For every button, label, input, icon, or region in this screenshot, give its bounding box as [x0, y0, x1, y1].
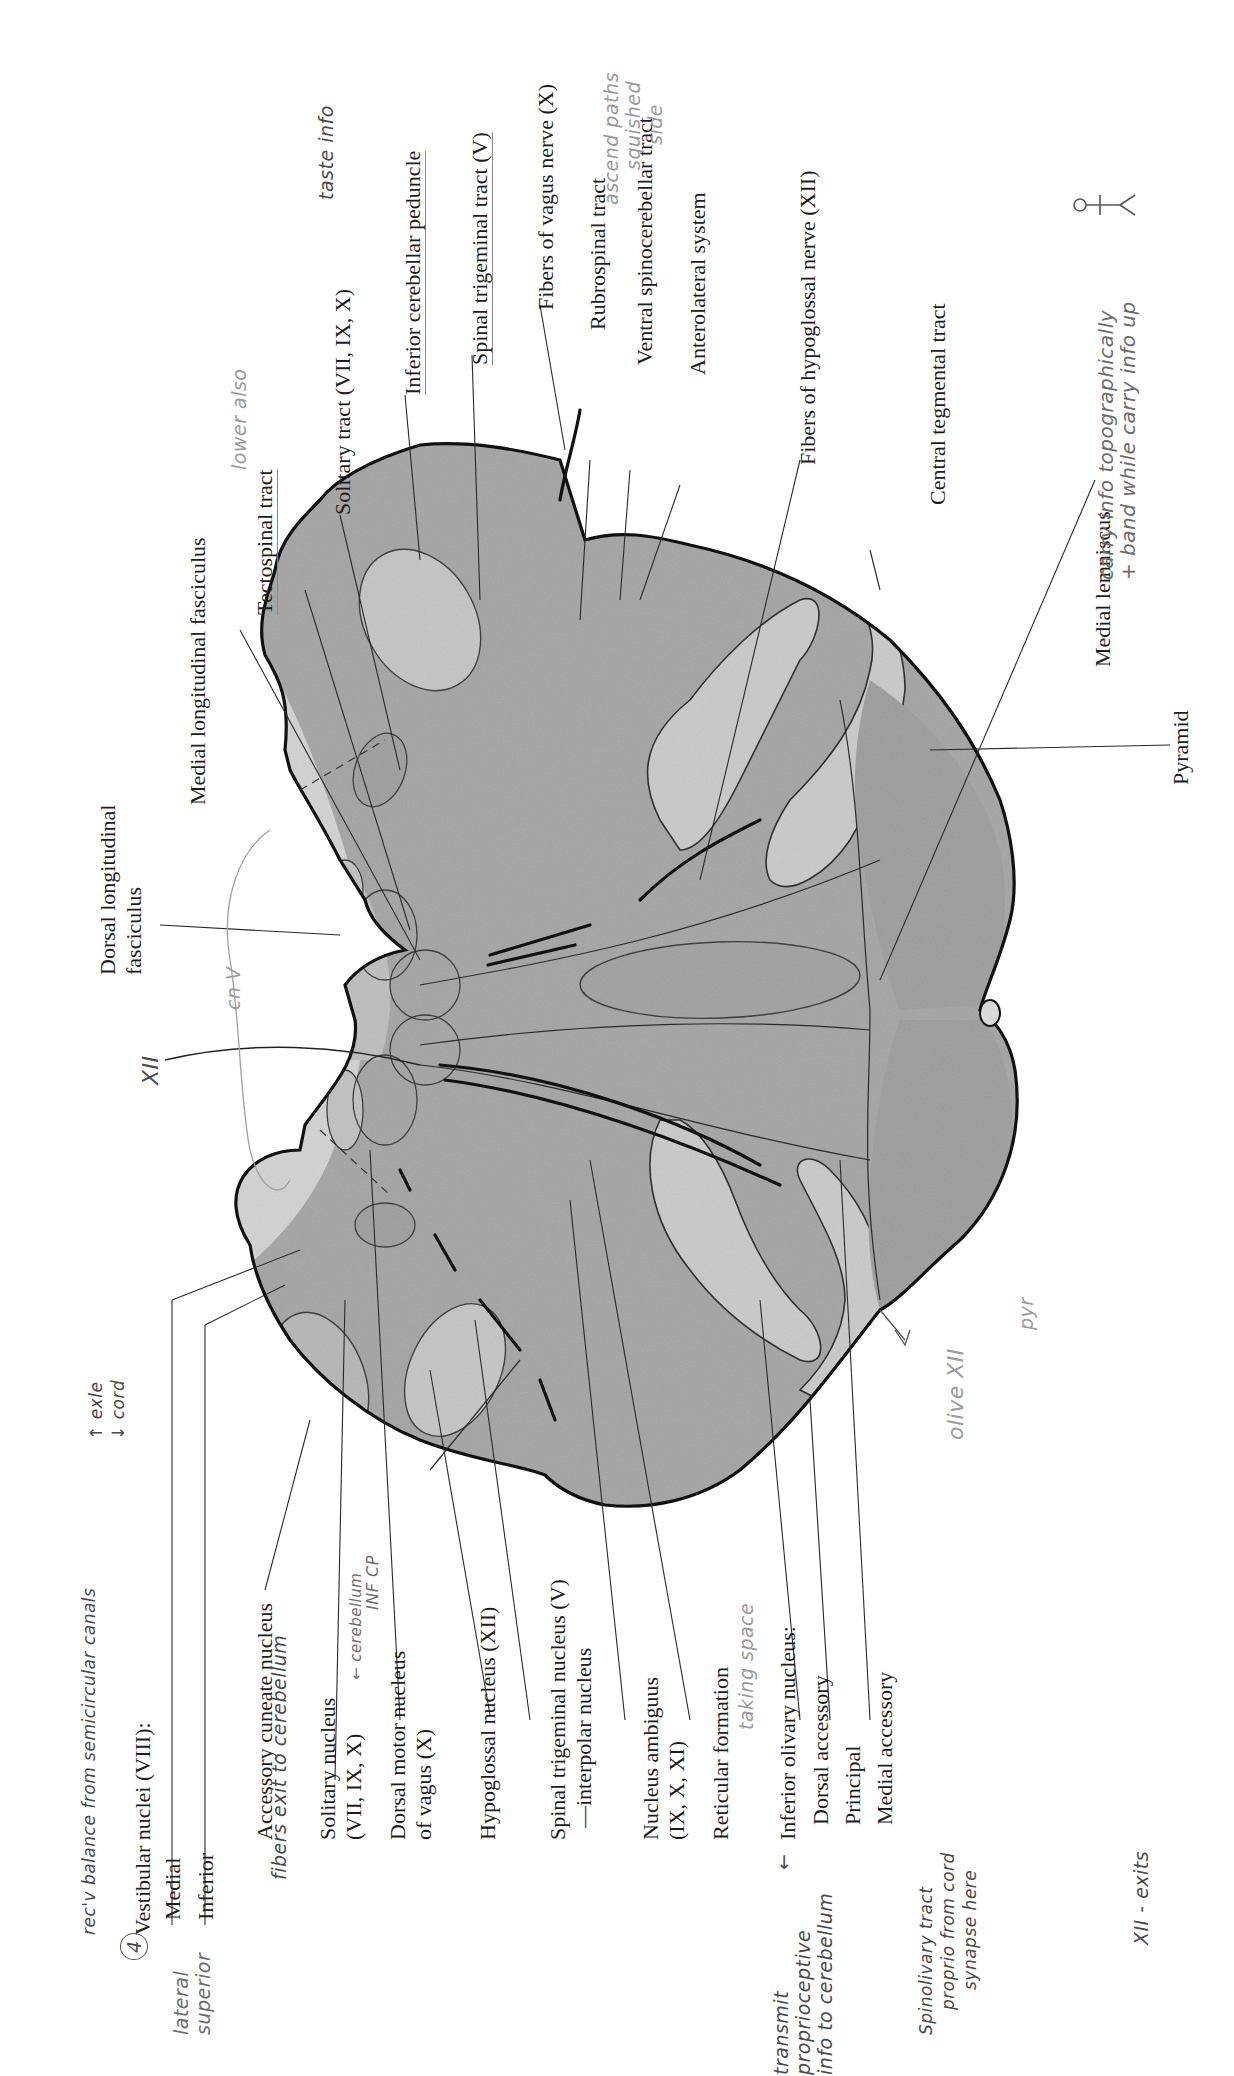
note-vestibular-arrows: ↑ exle↓ cord [85, 1380, 129, 1440]
note-synapse-here: synapse here [959, 1852, 981, 2035]
label-dlf-line2: fasciculus [121, 805, 147, 975]
note-lemniscus-topographic: carry info topographically+ band while c… [1095, 301, 1139, 580]
note-lower-also: lower also [228, 369, 250, 470]
label-spinal-trigeminal-nucleus: Spinal trigeminal nucleus (V)—interpolar… [545, 1579, 597, 1840]
label-inferior-olivary-nucleus: Inferior olivary nucleus: [775, 1626, 801, 1840]
note-lateral: lateral [170, 1953, 192, 2035]
note-side: side [644, 72, 666, 205]
label-fibers-vagus-nerve: Fibers of vagus nerve (X) [533, 84, 559, 310]
note-ascending-paths: ascend pathssquishedside [600, 72, 666, 205]
note-lateral-superior: lateralsuperior [170, 1953, 214, 2035]
label-dorsal-motor-vagus: Dorsal motor nucleusof vagus (X) [385, 1651, 437, 1840]
label-nucleus-ambiguus-line2: (IX, X, XI) [664, 1677, 690, 1840]
label-icp-text: Inferior cerebellar peduncle [400, 151, 426, 395]
label-medial-longitudinal-fasciculus: Medial longitudinal fasciculus [185, 537, 211, 805]
label-vestibular-inferior: Inferior [193, 1853, 219, 1920]
note-arrow-down: ↓ cord [107, 1380, 129, 1440]
label-dorsal-longitudinal-fasciculus: Dorsal longitudinalfasciculus [95, 805, 147, 975]
label-olivary-principal: Principal [840, 1746, 866, 1825]
label-solitary-nucleus: Solitary nucleus(VII, IX, X) [315, 1698, 367, 1840]
handwritten-arrow [880, 1310, 910, 1345]
note-xii-left: XII [140, 1055, 162, 1085]
note-cn-v: cn V [222, 966, 244, 1010]
note-olive-xii: olive XII [945, 1348, 967, 1440]
label-olivary-dorsal-accessory: Dorsal accessory [808, 1675, 834, 1825]
label-stt-text: Spinal trigeminal tract (V) [467, 132, 493, 365]
label-spinal-trigeminal-line1: Spinal trigeminal nucleus (V) [545, 1579, 571, 1840]
label-fibers-hypoglossal-nerve: Fibers of hypoglossal nerve (XII) [795, 171, 821, 466]
note-olive-arrow: ← [772, 1854, 794, 1870]
label-dorsal-motor-line1: Dorsal motor nucleus [385, 1651, 411, 1840]
label-solitary-nucleus-line2: (VII, IX, X) [341, 1698, 367, 1840]
note-transmit: transmit [770, 1893, 792, 2075]
medulla-tissue [0, 0, 1234, 2076]
label-dlf-line1: Dorsal longitudinal [95, 805, 121, 975]
note-proprioceptive: transmitproprioceptiveinfo to cerebellum [770, 1893, 836, 2075]
note-to-cerebellum: info to cerebellum [814, 1893, 836, 2075]
handwritten-bracket [227, 830, 290, 1190]
medulla-section-diagram [0, 0, 1234, 2076]
label-tectospinal-tract: Tectospinal tract [252, 469, 278, 615]
label-solitary-nucleus-line1: Solitary nucleus [315, 1698, 341, 1840]
label-vestibular-nuclei: Vestibular nuclei (VIII): [130, 1722, 156, 1935]
note-proprio-cord: proprio from cord [937, 1852, 959, 2035]
label-pyramid: Pyramid [1168, 710, 1194, 785]
label-dorsal-motor-line2: of vagus (X) [411, 1651, 437, 1840]
note-taste-info: taste info [315, 105, 337, 200]
note-xii-exits: XII - exits [1130, 1851, 1152, 1945]
note-ascend: ascend paths [600, 72, 622, 205]
note-taking-space: taking space [735, 1603, 757, 1730]
label-hypoglossal-nucleus: Hypoglossal nucleus (XII) [475, 1607, 501, 1840]
note-carry-topographically: carry info topographically [1095, 301, 1117, 580]
note-squished: squished [622, 72, 644, 205]
label-solitary-tract: Solitary tract (VII, IX, X) [330, 289, 356, 515]
label-nucleus-ambiguus: Nucleus ambiguus(IX, X, XI) [638, 1677, 690, 1840]
label-inferior-cerebellar-peduncle: Inferior cerebellar peduncle [400, 151, 426, 395]
note-arrow-up: ↑ exle [85, 1380, 107, 1440]
note-spinolivary-tract: Spinolivary tractproprio from cordsynaps… [915, 1852, 981, 2035]
label-olivary-medial-accessory: Medial accessory [872, 1672, 898, 1825]
label-vestibular-medial: Medial [160, 1858, 186, 1920]
note-fibers-exit-cerebellum: fibers exit to cerebellum [268, 1635, 290, 1880]
note-circled-number: 4 [120, 1933, 148, 1960]
label-spinal-trigeminal-line2: —interpolar nucleus [571, 1579, 597, 1840]
note-proprio: proprioceptive [792, 1893, 814, 2075]
label-spinal-trigeminal-tract: Spinal trigeminal tract (V) [467, 132, 493, 365]
note-superior: superior [192, 1953, 214, 2035]
label-central-tegmental-tract: Central tegmental tract [925, 303, 951, 505]
note-inf-cp: INF CP [362, 1555, 384, 1610]
label-nucleus-ambiguus-line1: Nucleus ambiguus [638, 1677, 664, 1840]
note-vestibular-balance: rec'v balance from semicircular canals [78, 1588, 100, 1935]
label-anterolateral-system: Anterolateral system [685, 192, 711, 375]
label-tectospinal-text: Tectospinal tract [252, 469, 278, 615]
label-reticular-formation: Reticular formation [708, 1667, 734, 1840]
homunculus-doodle-icon [1074, 195, 1135, 215]
note-spinolivary: Spinolivary tract [915, 1852, 937, 2035]
note-band-carry-up: + band while carry info up [1117, 301, 1139, 580]
note-pyr: pyr [1015, 1297, 1037, 1330]
